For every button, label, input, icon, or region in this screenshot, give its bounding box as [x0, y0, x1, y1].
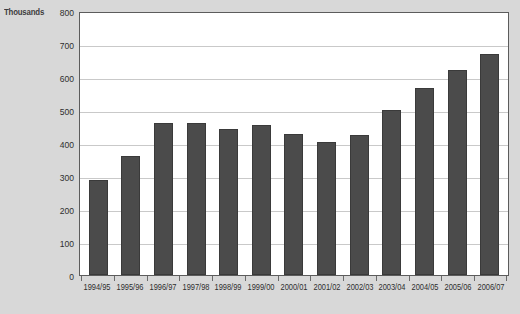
- x-axis-label-2002/03: 2002/03: [346, 282, 373, 292]
- y-axis-tick-800: 800: [54, 7, 74, 18]
- bar-slot: [310, 13, 343, 275]
- bar-1998/99[interactable]: [219, 129, 238, 275]
- x-axis-label-1995/96: 1995/96: [117, 282, 144, 292]
- bar-slot: [375, 13, 408, 275]
- y-axis-tick-labels: 8007006005004003002001000: [52, 0, 74, 314]
- bar-2003/04[interactable]: [382, 110, 401, 275]
- bar-1996/97[interactable]: [154, 123, 173, 275]
- x-tick-mark: [179, 276, 180, 281]
- x-axis-slot: 2002/03: [343, 276, 376, 306]
- bar-slot: [441, 13, 474, 275]
- x-axis-slot: 1999/00: [245, 276, 278, 306]
- bar-2002/03[interactable]: [350, 135, 369, 275]
- x-axis-slot: 1995/96: [114, 276, 147, 306]
- x-tick-mark: [441, 276, 442, 281]
- plot-area: [79, 12, 509, 276]
- y-axis-tick-700: 700: [54, 40, 74, 51]
- x-axis-label-2003/04: 2003/04: [379, 282, 406, 292]
- bar-slot: [115, 13, 148, 275]
- x-tick-mark: [278, 276, 279, 281]
- bar-1994/95[interactable]: [89, 180, 108, 275]
- bar-slot: [278, 13, 311, 275]
- y-axis-tick-500: 500: [54, 106, 74, 117]
- bars-layer: [80, 13, 508, 275]
- x-axis-slot: 1998/99: [212, 276, 245, 306]
- x-axis-label-2000/01: 2000/01: [280, 282, 307, 292]
- x-axis-slot: 2006/07: [474, 276, 507, 306]
- x-tick-mark: [376, 276, 377, 281]
- x-tick-mark: [506, 276, 507, 281]
- y-axis-tick-600: 600: [54, 73, 74, 84]
- bar-1995/96[interactable]: [121, 156, 140, 275]
- bar-slot: [212, 13, 245, 275]
- bar-slot: [147, 13, 180, 275]
- y-axis-tick-0: 0: [54, 271, 74, 282]
- x-axis-slot: 2004/05: [409, 276, 442, 306]
- bar-2006/07[interactable]: [480, 54, 499, 275]
- x-axis-label-1996/97: 1996/97: [149, 282, 176, 292]
- x-tick-mark: [81, 276, 82, 281]
- x-axis-label-1998/99: 1998/99: [215, 282, 242, 292]
- bar-chart: Thousands 8007006005004003002001000 1994…: [0, 0, 520, 314]
- x-axis-label-2001/02: 2001/02: [313, 282, 340, 292]
- y-axis-tick-400: 400: [54, 139, 74, 150]
- bar-slot: [473, 13, 506, 275]
- y-axis-tick-300: 300: [54, 172, 74, 183]
- x-axis-label-1999/00: 1999/00: [248, 282, 275, 292]
- x-tick-mark: [212, 276, 213, 281]
- bar-1997/98[interactable]: [187, 123, 206, 275]
- bar-1999/00[interactable]: [252, 125, 271, 275]
- bar-2004/05[interactable]: [415, 88, 434, 275]
- bar-slot: [343, 13, 376, 275]
- x-axis-tick-labels: 1994/951995/961996/971997/981998/991999/…: [79, 276, 509, 306]
- x-axis-slot: 1997/98: [179, 276, 212, 306]
- bar-2005/06[interactable]: [448, 70, 467, 275]
- bar-slot: [82, 13, 115, 275]
- x-axis-label-2005/06: 2005/06: [444, 282, 471, 292]
- y-axis-tick-100: 100: [54, 238, 74, 249]
- x-tick-mark: [245, 276, 246, 281]
- y-axis-tick-200: 200: [54, 205, 74, 216]
- x-axis-slot: 2003/04: [376, 276, 409, 306]
- x-axis-slot: 1994/95: [81, 276, 114, 306]
- x-axis-slot: 2001/02: [310, 276, 343, 306]
- bar-slot: [180, 13, 213, 275]
- x-tick-mark: [474, 276, 475, 281]
- x-axis-label-1997/98: 1997/98: [182, 282, 209, 292]
- x-tick-mark: [114, 276, 115, 281]
- bar-2000/01[interactable]: [284, 134, 303, 275]
- x-axis-label-2004/05: 2004/05: [412, 282, 439, 292]
- x-axis-slot: 2000/01: [278, 276, 311, 306]
- bar-slot: [408, 13, 441, 275]
- x-axis-slot: 1996/97: [147, 276, 180, 306]
- bar-2001/02[interactable]: [317, 142, 336, 275]
- x-tick-mark: [310, 276, 311, 281]
- y-axis-unit-label: Thousands: [4, 7, 44, 17]
- x-axis-slot: 2005/06: [441, 276, 474, 306]
- x-tick-mark: [343, 276, 344, 281]
- x-axis-label-2006/07: 2006/07: [477, 282, 504, 292]
- x-tick-mark: [409, 276, 410, 281]
- x-tick-mark: [147, 276, 148, 281]
- x-axis-label-1994/95: 1994/95: [84, 282, 111, 292]
- bar-slot: [245, 13, 278, 275]
